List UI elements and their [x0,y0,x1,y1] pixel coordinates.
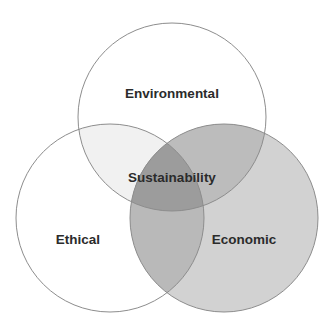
label-ethical: Ethical [56,232,100,247]
venn-diagram: Environmental Sustainability Ethical Eco… [0,0,334,331]
venn-diagram-canvas: Environmental Sustainability Ethical Eco… [0,0,334,331]
label-sustainability: Sustainability [128,170,216,185]
label-environmental: Environmental [125,86,219,101]
label-economic: Economic [212,232,277,247]
